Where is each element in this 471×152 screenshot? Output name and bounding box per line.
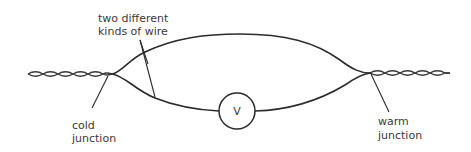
upper-wire [112,34,370,74]
cold-junction-label: cold junction [71,119,116,145]
wires-label: two different kinds of wire [98,12,169,38]
cold-label-line2: junction [71,132,116,145]
leader-warm-junction [371,74,389,112]
warm-label-line2: junction [377,129,422,142]
left-twisted-wire [28,72,112,77]
leader-cold-junction [92,76,108,108]
voltmeter-label: V [233,105,241,118]
warm-label-line1: warm [378,115,409,128]
warm-junction-label: warm junction [377,115,422,142]
wires-label-line1: two different [98,12,169,25]
right-twisted-wire [370,71,450,76]
wires-label-line2: kinds of wire [98,25,168,38]
thermocouple-diagram: V two different kinds of wire cold junct… [0,0,471,152]
voltmeter: V [219,93,255,129]
cold-label-line1: cold [72,119,95,132]
